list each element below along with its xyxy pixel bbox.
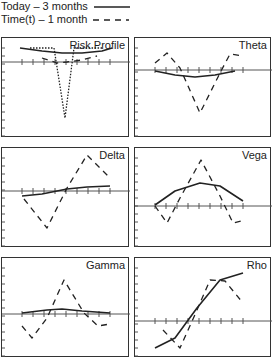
dashed-line-swatch: [93, 18, 129, 22]
panel-gamma: Gamma: [1, 257, 129, 357]
solid-line-swatch: [94, 5, 130, 9]
panel-title: Rho: [247, 259, 267, 271]
legend-label: Time(t) – 1 month: [1, 13, 87, 26]
panel-title: Risk Profile: [69, 39, 125, 51]
panel-title: Vega: [242, 149, 267, 161]
chart-gamma: [2, 258, 130, 358]
chart-vega: [135, 148, 272, 248]
legend-label: Today – 3 months: [1, 0, 88, 13]
panel-vega: Vega: [134, 147, 271, 247]
chart-delta: [2, 148, 130, 248]
chart-risk-profile: [2, 38, 130, 138]
panel-delta: Delta: [1, 147, 129, 247]
panel-theta: Theta: [134, 37, 271, 137]
panel-risk-profile: Risk Profile: [1, 37, 129, 137]
panel-title: Gamma: [86, 259, 125, 271]
legend-item-today: Today – 3 months: [1, 0, 130, 13]
chart-theta: [135, 38, 272, 138]
panel-title: Theta: [239, 39, 267, 51]
panel-title: Delta: [99, 149, 125, 161]
legend: Today – 3 months Time(t) – 1 month: [1, 0, 130, 26]
legend-item-time: Time(t) – 1 month: [1, 13, 130, 26]
panel-rho: Rho: [134, 257, 271, 357]
chart-rho: [135, 258, 272, 358]
